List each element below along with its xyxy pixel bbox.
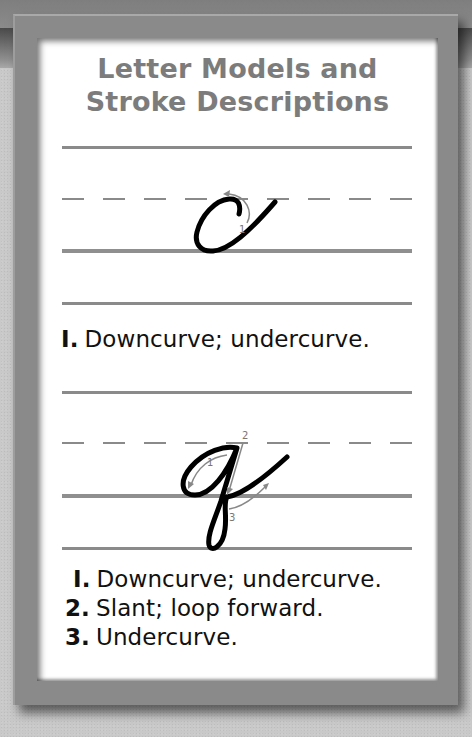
letter-model-card: Letter Models and Stroke Descriptions 1 … bbox=[37, 38, 438, 681]
title-line-1: Letter Models and bbox=[37, 52, 438, 85]
svg-text:2: 2 bbox=[242, 430, 248, 441]
page-title: Letter Models and Stroke Descriptions bbox=[37, 52, 438, 118]
headline-rule bbox=[62, 146, 412, 149]
descender-rule bbox=[62, 302, 412, 305]
picture-frame: Letter Models and Stroke Descriptions 1 … bbox=[13, 14, 458, 705]
step-number: 2. bbox=[65, 595, 90, 621]
step-number: 3. bbox=[65, 624, 90, 650]
headline-rule bbox=[62, 391, 412, 394]
cursive-c-model-icon: 1 bbox=[177, 178, 287, 258]
cursive-q-model-icon: 1 2 3 bbox=[167, 423, 297, 553]
svg-text:3: 3 bbox=[229, 512, 235, 523]
step-text: Downcurve; undercurve. bbox=[85, 326, 370, 352]
step-number: I. bbox=[61, 326, 79, 352]
step-text: Slant; loop forward. bbox=[96, 595, 324, 621]
step-text: Downcurve; undercurve. bbox=[97, 566, 382, 592]
title-line-2: Stroke Descriptions bbox=[37, 85, 438, 118]
svg-text:1: 1 bbox=[207, 457, 213, 468]
svg-text:1: 1 bbox=[239, 224, 245, 235]
model-q-step-1: I.Downcurve; undercurve. bbox=[73, 565, 382, 593]
model-q-step-2: 2.Slant; loop forward. bbox=[65, 594, 324, 622]
step-text: Undercurve. bbox=[96, 624, 238, 650]
model-q-step-3: 3.Undercurve. bbox=[65, 623, 238, 651]
model-c-step-1: I.Downcurve; undercurve. bbox=[61, 325, 370, 353]
step-number: I. bbox=[73, 566, 91, 592]
